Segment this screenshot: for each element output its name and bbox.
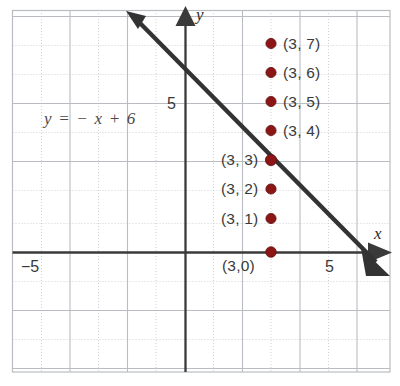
point-label-3-5: (3, 5) xyxy=(283,94,320,110)
point-label-3-6: (3, 6) xyxy=(283,65,320,81)
grid-frame xyxy=(13,11,391,373)
point-label-3-2: (3, 2) xyxy=(221,181,258,197)
point-label-3-1: (3, 1) xyxy=(221,211,258,227)
x-axis-label: x xyxy=(374,225,382,242)
data-point xyxy=(266,247,277,258)
grid-major-lines xyxy=(13,10,391,372)
y-axis-label: y xyxy=(196,6,204,23)
point-label-3-0: (3,0) xyxy=(222,258,255,274)
equation-annotation: y = − x + 6 xyxy=(44,110,136,127)
data-point xyxy=(265,154,276,165)
point-label-3-7: (3, 7) xyxy=(283,36,320,52)
data-point xyxy=(266,67,276,77)
data-points xyxy=(265,38,276,257)
coordinate-plane-svg xyxy=(0,0,400,386)
y-tick-label-5: 5 xyxy=(167,96,176,112)
data-point xyxy=(266,96,276,106)
point-label-3-3: (3, 3) xyxy=(221,152,258,168)
x-tick-label-neg5: −5 xyxy=(21,259,39,275)
x-tick-label-5: 5 xyxy=(325,259,334,275)
graph-figure: y = − x + 6 y x −5 5 5 (3, 7) (3, 6) (3,… xyxy=(0,0,400,386)
graph-line-y-equals-neg-x-plus-6 xyxy=(126,11,390,276)
point-label-3-4: (3, 4) xyxy=(283,123,320,139)
data-point xyxy=(266,213,276,223)
x-axis xyxy=(13,243,393,263)
grid-minor-lines xyxy=(13,10,391,372)
data-point xyxy=(266,184,276,194)
data-point xyxy=(266,125,276,135)
data-point xyxy=(266,38,276,48)
